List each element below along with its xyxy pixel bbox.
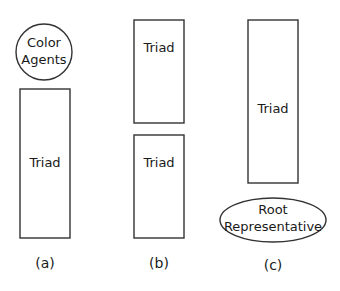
panel-c: Triad Root Representative (c)	[220, 20, 326, 273]
triad-rect-b-top	[134, 20, 184, 123]
root-representative-label-line1: Root	[258, 202, 287, 217]
triad-label-a: Triad	[28, 155, 60, 170]
panel-a: Color Agents Triad (a)	[16, 24, 72, 271]
caption-c: (c)	[264, 257, 283, 273]
root-representative-label-line2: Representative	[224, 219, 322, 234]
panel-b: Triad Triad (b)	[134, 20, 184, 271]
diagram: Color Agents Triad (a) Triad Triad (b) T…	[0, 0, 340, 291]
triad-label-b-bottom: Triad	[142, 155, 174, 170]
caption-b: (b)	[149, 255, 169, 271]
triad-label-c: Triad	[256, 101, 288, 116]
color-agents-label-line1: Color	[27, 35, 62, 50]
caption-a: (a)	[35, 255, 55, 271]
triad-label-b-top: Triad	[142, 40, 174, 55]
triad-rect-b-bottom	[134, 135, 184, 238]
color-agents-label-line2: Agents	[21, 52, 66, 67]
